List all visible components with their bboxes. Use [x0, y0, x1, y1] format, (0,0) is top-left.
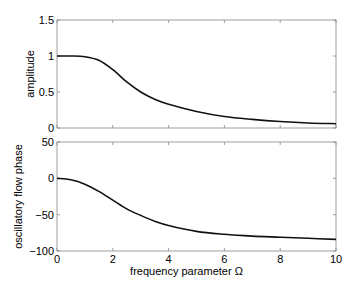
y-tick-label: 0 [48, 172, 54, 184]
plot-frame [57, 142, 336, 251]
amplitude-axes: 00.511.5amplitude [24, 14, 336, 134]
y-tick-label: 1 [48, 50, 54, 62]
y-axis-label: oscillatory flow phase [12, 144, 24, 249]
x-tick-label: 6 [221, 253, 227, 265]
data-line [57, 56, 336, 124]
y-tick-label: 0 [48, 122, 54, 134]
data-line [57, 178, 336, 239]
x-tick-label: 8 [277, 253, 283, 265]
x-tick-label: 2 [110, 253, 116, 265]
y-axis-label: amplitude [24, 50, 36, 98]
y-tick-label: −100 [29, 245, 54, 257]
chart-figure: 00.511.5amplitude 0246810−100−50050oscil… [0, 0, 354, 292]
x-tick-label: 10 [330, 253, 342, 265]
y-tick-label: 1.5 [39, 14, 54, 26]
y-tick-label: −50 [35, 209, 54, 221]
x-tick-label: 4 [166, 253, 172, 265]
x-axis-label: frequency parameter Ω [130, 265, 243, 277]
y-tick-label: 50 [42, 136, 54, 148]
x-tick-label: 0 [54, 253, 60, 265]
y-tick-label: 0.5 [39, 86, 54, 98]
phase-axes: 0246810−100−50050oscillatory flow phasef… [12, 136, 342, 277]
